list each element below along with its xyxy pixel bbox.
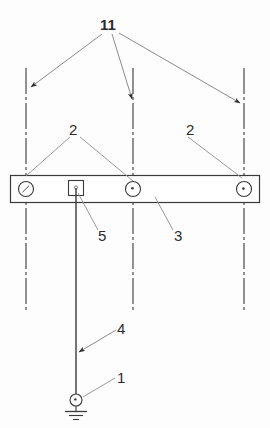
ground-electrode bbox=[65, 394, 87, 420]
label-2-left: 2 bbox=[69, 121, 77, 138]
leader-11-to-right bbox=[119, 33, 240, 103]
leaders-group bbox=[26, 33, 242, 397]
leader-2-right bbox=[188, 137, 242, 178]
leader-4 bbox=[79, 330, 116, 352]
label-5: 5 bbox=[98, 227, 106, 244]
label-3: 3 bbox=[174, 227, 182, 244]
leader-11-to-center bbox=[112, 34, 132, 99]
label-4: 4 bbox=[117, 320, 125, 337]
label-11: 11 bbox=[100, 16, 116, 33]
bushing-center-icon bbox=[126, 182, 141, 197]
label-1: 1 bbox=[117, 369, 125, 386]
label-2-right: 2 bbox=[186, 121, 194, 138]
bushing-right-icon bbox=[237, 182, 252, 197]
figure-canvas: 11 2 2 5 3 4 1 bbox=[0, 0, 270, 428]
leader-2-left-b bbox=[80, 137, 133, 181]
leader-1 bbox=[83, 378, 115, 397]
leader-2-left-a bbox=[26, 137, 70, 176]
leader-11-to-left bbox=[31, 34, 102, 87]
technical-figure: 11 2 2 5 3 4 1 bbox=[0, 0, 270, 428]
bushing-left-icon bbox=[19, 182, 34, 197]
